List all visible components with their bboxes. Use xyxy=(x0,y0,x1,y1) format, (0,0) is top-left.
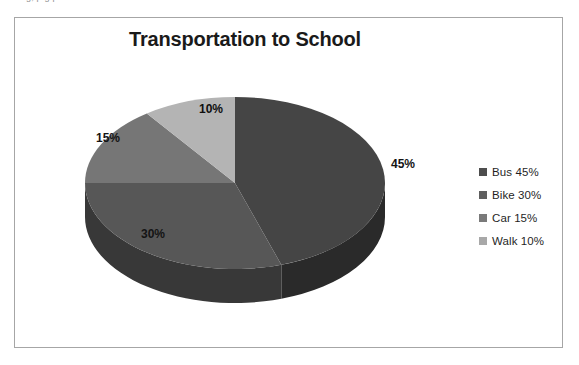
pie-data-label-bus: 45% xyxy=(391,157,415,171)
chart-frame: Transportation to School xyxy=(14,17,563,348)
legend-item-walk[interactable]: Walk 10% xyxy=(479,229,563,252)
pie-top-face xyxy=(85,97,385,269)
legend-label-bus: Bus 45% xyxy=(492,166,539,178)
pie-data-label-walk: 10% xyxy=(199,102,223,116)
pie-data-label-bike: 30% xyxy=(141,227,165,241)
scan-top-artifact-text: g, p g p xyxy=(26,0,58,2)
chart-legend: Bus 45% Bike 30% Car 15% Walk 10% xyxy=(479,160,563,252)
pie-chart[interactable]: 45% 30% 15% 10% xyxy=(51,66,443,306)
legend-swatch-walk xyxy=(479,237,487,245)
legend-item-bus[interactable]: Bus 45% xyxy=(479,160,563,183)
legend-swatch-bike xyxy=(479,191,487,199)
legend-item-bike[interactable]: Bike 30% xyxy=(479,183,563,206)
legend-swatch-bus xyxy=(479,168,487,176)
pie-data-label-car: 15% xyxy=(96,131,120,145)
legend-swatch-car xyxy=(479,214,487,222)
legend-item-car[interactable]: Car 15% xyxy=(479,206,563,229)
legend-label-bike: Bike 30% xyxy=(492,189,541,201)
legend-label-car: Car 15% xyxy=(492,212,537,224)
legend-label-walk: Walk 10% xyxy=(492,235,544,247)
scan-top-artifact: g, p g p xyxy=(0,0,579,9)
chart-title: Transportation to School xyxy=(15,28,475,51)
pie-chart-svg: 45% 30% 15% 10% xyxy=(51,66,443,306)
